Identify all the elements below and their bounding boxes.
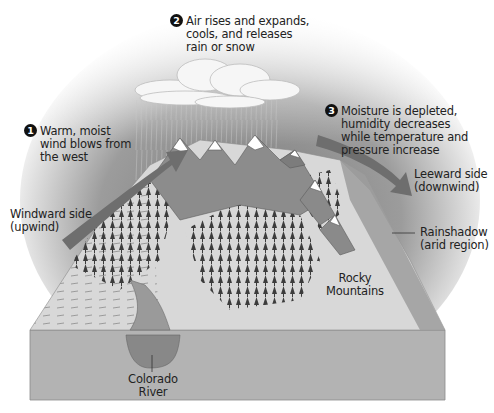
step-3-badge: 3 bbox=[325, 104, 338, 117]
step-3-annotation: 3Moisture is depleted, humidity decrease… bbox=[325, 104, 468, 157]
rain-shadow-diagram: 2Air rises and expands, cools, and relea… bbox=[0, 0, 494, 413]
step-1-badge: 1 bbox=[24, 124, 37, 137]
rocky-mountains-label: Rocky Mountains bbox=[326, 272, 384, 298]
step-1-annotation: 1Warm, moist wind blows from the west bbox=[24, 124, 131, 164]
leeward-label: Leeward side (downwind) bbox=[414, 168, 487, 194]
windward-label: Windward side (upwind) bbox=[10, 208, 92, 234]
step-2-annotation: 2Air rises and expands, cools, and relea… bbox=[170, 14, 309, 54]
colorado-river-label: Colorado River bbox=[128, 373, 178, 399]
terrain-block-front bbox=[30, 330, 445, 400]
step-2-badge: 2 bbox=[170, 14, 183, 27]
rainshadow-label: Rainshadow (arid region) bbox=[420, 226, 489, 252]
